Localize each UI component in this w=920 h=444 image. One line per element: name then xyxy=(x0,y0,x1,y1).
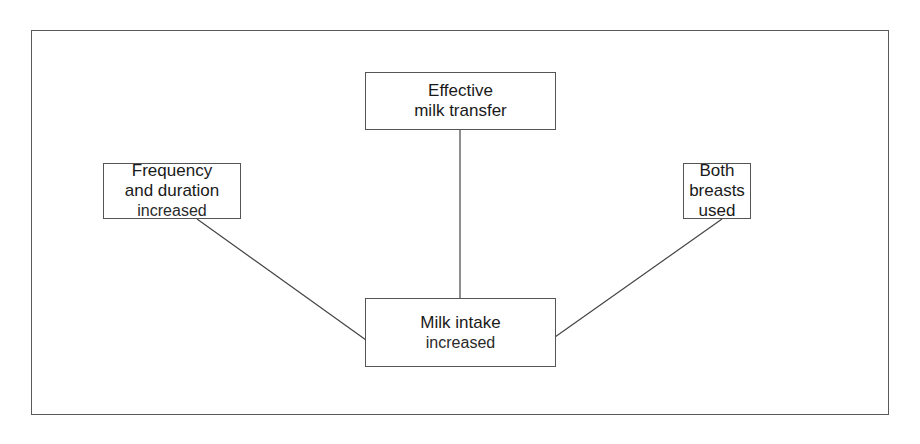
node-milk-intake-increased: Milk intake increased xyxy=(365,298,556,367)
node-sublabel: increased xyxy=(426,333,495,353)
node-label: and duration xyxy=(125,181,220,201)
node-label: breasts xyxy=(689,181,745,201)
node-sublabel: increased xyxy=(137,201,206,221)
node-both-breasts-used: Both breasts used xyxy=(683,163,751,219)
node-effective-milk-transfer: Effective milk transfer xyxy=(365,72,556,130)
edge-breasts-to-intake xyxy=(555,219,722,337)
node-label: Milk intake xyxy=(420,313,500,333)
node-frequency-duration: Frequency and duration increased xyxy=(103,163,241,219)
node-label: Both xyxy=(700,161,735,181)
node-label: used xyxy=(699,201,736,221)
node-label: Effective xyxy=(428,81,493,101)
node-label: Frequency xyxy=(132,161,212,181)
node-label: milk transfer xyxy=(414,101,507,121)
connector-lines xyxy=(0,0,920,444)
edge-frequency-to-intake xyxy=(197,219,366,340)
